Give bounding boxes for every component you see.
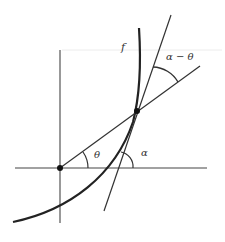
alpha-minus-theta-label: α − θ (166, 52, 194, 62)
alpha-label: α (141, 148, 148, 158)
theta-arc (83, 152, 88, 168)
point-p (134, 108, 140, 114)
alpha-minus-theta-arc (153, 67, 178, 82)
curve-f (13, 28, 140, 222)
theta-label: θ (94, 150, 100, 160)
secant-line (60, 66, 200, 168)
origin-point (57, 165, 63, 171)
diagram-figure: f α − θ θ α (0, 0, 225, 242)
curve-label: f (121, 42, 125, 53)
diagram-canvas (0, 0, 225, 242)
